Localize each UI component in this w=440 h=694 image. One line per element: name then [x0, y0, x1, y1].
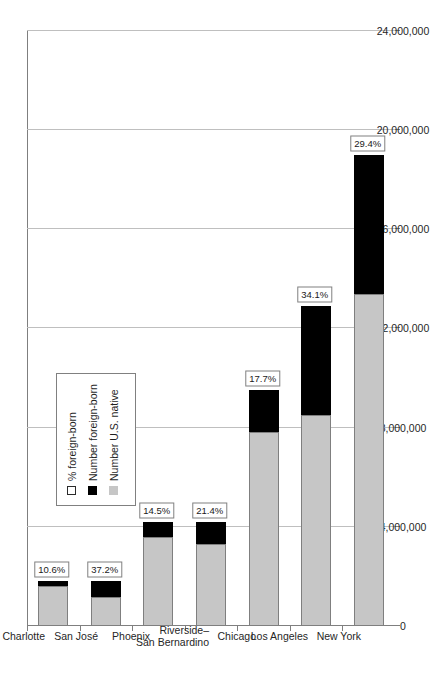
- legend-item-pct: % foreign-born: [66, 384, 78, 495]
- legend-label-us-native: Number U.S. native: [108, 389, 120, 481]
- legend-swatch-us-native-icon: [109, 486, 118, 495]
- bar-segment-us-native[interactable]: [196, 544, 226, 626]
- bar-group: [301, 0, 331, 694]
- percent-callout-box: 17.7%: [245, 371, 280, 387]
- bar-segment-us-native[interactable]: [354, 294, 384, 626]
- chart-legend: % foreign-born Number foreign-born Numbe…: [56, 373, 136, 506]
- bar-segment-foreign-born[interactable]: [91, 581, 121, 598]
- bar-group: [143, 0, 173, 694]
- bar-segment-foreign-born[interactable]: [143, 522, 173, 537]
- category-label-newyork: New York: [281, 630, 361, 642]
- bar-segment-us-native[interactable]: [91, 598, 121, 627]
- legend-item-foreign-born: Number foreign-born: [87, 384, 99, 495]
- bar-segment-foreign-born[interactable]: [196, 522, 226, 544]
- chart-rotated-container: 04,000,0008,000,00012,000,00016,000,0002…: [0, 0, 440, 694]
- percent-callout-box: 14.5%: [140, 502, 175, 518]
- bar-segment-foreign-born[interactable]: [38, 581, 68, 586]
- percent-callout-box: 29.4%: [350, 135, 385, 151]
- legend-swatch-pct-icon: [67, 486, 76, 495]
- bar-group: [196, 0, 226, 694]
- bar-group: [354, 0, 384, 694]
- bar-segment-us-native[interactable]: [38, 586, 68, 626]
- chart-canvas: 04,000,0008,000,00012,000,00016,000,0002…: [0, 0, 440, 694]
- legend-label-foreign-born: Number foreign-born: [87, 384, 99, 481]
- bar-segment-us-native[interactable]: [249, 432, 279, 626]
- percent-callout-box: 37.2%: [87, 561, 122, 577]
- category-label-line: New York: [281, 630, 361, 642]
- legend-label-pct: % foreign-born: [66, 412, 78, 481]
- bar-segment-foreign-born[interactable]: [354, 155, 384, 294]
- bar-segment-us-native[interactable]: [143, 537, 173, 626]
- bar-segment-us-native[interactable]: [301, 415, 331, 626]
- bar-group: [38, 0, 68, 694]
- percent-callout-box: 10.6%: [35, 562, 70, 578]
- bar-segment-foreign-born[interactable]: [249, 391, 279, 433]
- legend-swatch-foreign-born-icon: [88, 486, 97, 495]
- bar-segment-foreign-born[interactable]: [301, 306, 331, 415]
- legend-item-us-native: Number U.S. native: [108, 384, 120, 495]
- bar-group: [249, 0, 279, 694]
- bar-group: [91, 0, 121, 694]
- percent-callout-box: 34.1%: [297, 287, 332, 303]
- percent-callout-box: 21.4%: [192, 502, 227, 518]
